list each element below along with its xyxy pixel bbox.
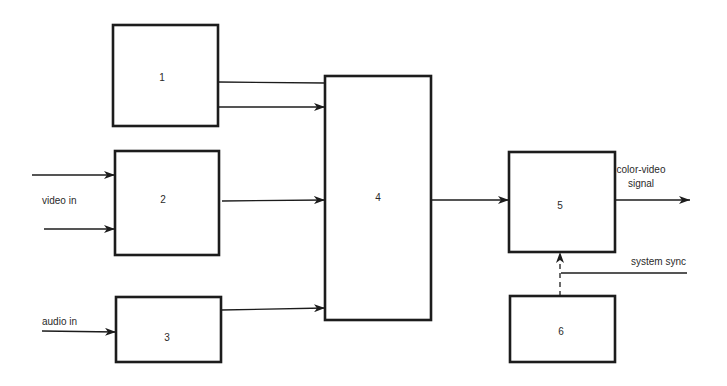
audio-in-label: audio in	[42, 316, 77, 327]
block-1-label: 1	[159, 72, 165, 83]
block-6: 6	[510, 296, 615, 362]
block-6-label: 6	[558, 326, 564, 337]
block-4-label: 4	[375, 192, 381, 203]
arrow-2-to-4	[222, 200, 325, 201]
block-1: 1	[113, 25, 218, 126]
block-5-label: 5	[557, 200, 563, 211]
block-diagram: 1 2 3 4 5 6 video in audio in color-vide…	[0, 0, 727, 386]
system-sync-label: system sync	[631, 256, 686, 267]
block-4: 4	[325, 76, 431, 320]
arrow-3-to-4	[221, 308, 325, 310]
output-label-line1: color-video	[617, 164, 666, 175]
block-5: 5	[509, 152, 615, 252]
arrow-audio-in	[42, 331, 116, 332]
block-3: 3	[116, 297, 221, 362]
output-label-line2: signal	[628, 178, 654, 189]
video-in-label: video in	[42, 195, 76, 206]
block-2: 2	[115, 151, 219, 255]
line-1-to-4-top	[218, 82, 325, 83]
block-2-label: 2	[160, 194, 166, 205]
block-3-label: 3	[164, 332, 170, 343]
